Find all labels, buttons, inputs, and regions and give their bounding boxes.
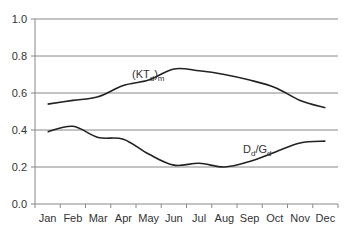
x-tick-label: Jun <box>165 212 183 224</box>
y-tick-label: 0.8 <box>12 50 27 62</box>
x-tick-label: Oct <box>266 212 283 224</box>
x-tick-label: Dec <box>316 212 336 224</box>
series-line-kt <box>48 68 326 107</box>
y-tick-label: 0.0 <box>12 198 27 210</box>
x-tick-label: Jul <box>192 212 206 224</box>
x-tick-label: Aug <box>215 212 235 224</box>
series-label-dd-gd: Dd/Gd <box>243 143 271 158</box>
x-tick-label: May <box>138 212 159 224</box>
x-tick-label: Apr <box>115 212 132 224</box>
line-chart: 0.00.20.40.60.81.0JanFebMarAprMayJunJulA… <box>0 0 349 237</box>
x-tick-label: Jan <box>39 212 57 224</box>
series-label-kt: (KTd)m <box>132 68 165 83</box>
y-tick-label: 0.6 <box>12 87 27 99</box>
x-tick-label: Sep <box>240 212 260 224</box>
y-tick-label: 1.0 <box>12 13 27 25</box>
y-tick-label: 0.4 <box>12 124 27 136</box>
x-tick-label: Feb <box>63 212 82 224</box>
x-tick-label: Mar <box>89 212 108 224</box>
x-tick-label: Nov <box>290 212 310 224</box>
y-tick-label: 0.2 <box>12 161 27 173</box>
series-line-dd-gd <box>48 126 326 167</box>
